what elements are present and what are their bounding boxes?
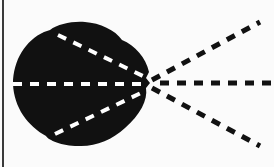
outer-dashed-lower-line <box>152 88 260 146</box>
outer-dashed-upper-line <box>152 22 260 80</box>
ray-diagram <box>0 0 274 167</box>
outer-dashed-lines <box>152 22 272 146</box>
diagram-canvas <box>0 0 274 167</box>
